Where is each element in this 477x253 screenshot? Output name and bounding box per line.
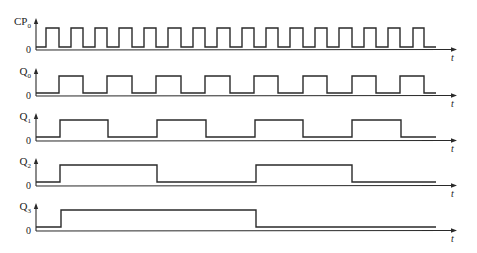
zero-label: 0 xyxy=(26,135,31,146)
signal-label: Q1 xyxy=(20,110,32,125)
time-axis xyxy=(36,141,452,142)
signal-label: Q0 xyxy=(20,65,32,80)
time-axis xyxy=(36,50,452,51)
time-label: t xyxy=(451,233,454,244)
zero-label: 0 xyxy=(26,90,31,101)
signal-cp0: CP00t xyxy=(14,15,457,63)
time-axis xyxy=(36,231,452,232)
zero-label: 0 xyxy=(26,44,31,55)
signal-label: Q2 xyxy=(20,155,32,170)
time-label: t xyxy=(451,188,454,199)
signal-q0: Q00t xyxy=(20,65,457,109)
time-label: t xyxy=(451,98,454,109)
y-axis-arrow-icon xyxy=(34,203,38,209)
waveform xyxy=(36,28,436,47)
time-label: t xyxy=(451,52,454,63)
waveform xyxy=(36,76,436,93)
zero-label: 0 xyxy=(26,180,31,191)
signal-q3: Q30t xyxy=(20,200,457,244)
zero-label: 0 xyxy=(26,225,31,236)
signal-label: CP0 xyxy=(14,15,31,30)
y-axis-arrow-icon xyxy=(34,18,38,24)
signal-q1: Q10t xyxy=(20,110,457,154)
signal-label: Q3 xyxy=(20,200,32,215)
timing-diagram: CP00tQ00tQ10tQ20tQ30t xyxy=(0,0,477,253)
waveform xyxy=(36,165,436,182)
y-axis-arrow-icon xyxy=(34,158,38,164)
waveform xyxy=(36,120,436,137)
y-axis-arrow-icon xyxy=(34,68,38,74)
signal-q2: Q20t xyxy=(20,155,457,199)
time-label: t xyxy=(451,143,454,154)
y-axis-arrow-icon xyxy=(34,113,38,119)
waveform xyxy=(36,210,436,227)
time-axis xyxy=(36,96,452,97)
time-axis xyxy=(36,186,452,187)
